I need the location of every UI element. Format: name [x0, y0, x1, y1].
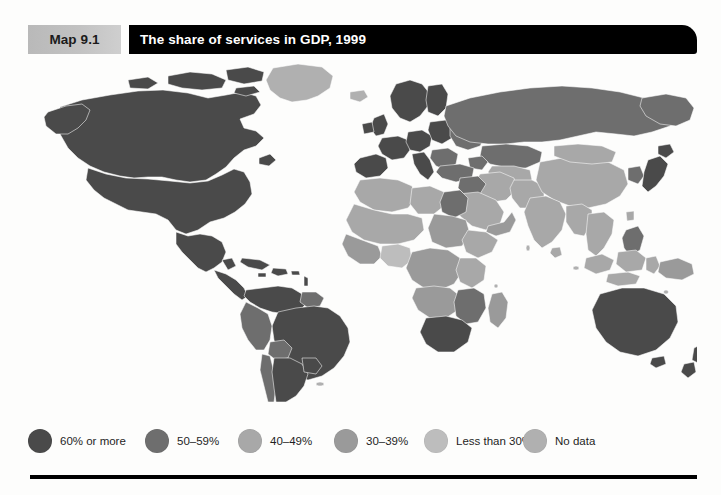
region-taiwan	[626, 211, 634, 221]
region-korea	[628, 166, 644, 184]
region-australia	[592, 288, 678, 356]
region-indonesia-sumatra	[584, 254, 614, 274]
map-number-label: Map 9.1	[49, 32, 99, 47]
region-iberia	[354, 154, 388, 178]
footer-rule	[30, 475, 697, 479]
legend-swatch-less-than-30	[424, 429, 448, 453]
legend-item-less-than-30: Less than 30%	[424, 424, 532, 458]
legend-label-no-data: No data	[555, 435, 595, 447]
region-tasmania	[650, 356, 666, 368]
legend-label-less-than-30: Less than 30%	[456, 435, 532, 447]
region-madagascar	[488, 292, 508, 328]
map-title-bar: The share of services in GDP, 1999	[129, 25, 697, 54]
region-scandinavia	[390, 80, 430, 122]
legend-item-no-data: No data	[523, 424, 595, 458]
region-central-africa	[406, 248, 462, 290]
legend-item-40-49: 40–49%	[238, 424, 312, 458]
region-japan	[642, 156, 668, 192]
region-puerto-rico	[291, 271, 300, 275]
region-iceland	[350, 90, 368, 102]
region-indonesia-java	[606, 272, 640, 286]
region-india	[524, 196, 566, 248]
legend-swatch-no-data	[523, 429, 547, 453]
map-header-banner: Map 9.1 The share of services in GDP, 19…	[28, 25, 697, 54]
map-number-box: Map 9.1	[28, 25, 121, 54]
map-title: The share of services in GDP, 1999	[129, 32, 366, 47]
region-canada-arctic-3	[128, 77, 158, 89]
region-island-speck-1	[573, 266, 579, 270]
region-jamaica	[258, 273, 266, 277]
map-legend: 60% or more 50–59% 40–49% 30–39% Less th…	[28, 424, 697, 458]
region-angola-zambia	[412, 286, 460, 318]
legend-swatch-40-49	[238, 429, 262, 453]
region-new-zealand-south	[681, 362, 696, 378]
region-ireland	[362, 122, 374, 134]
region-mozambique-zimbabwe	[454, 288, 486, 324]
legend-item-30-39: 30–39%	[334, 424, 408, 458]
region-papua-new-guinea	[658, 258, 694, 280]
region-island-speck-4	[316, 382, 324, 386]
legend-label-30-39: 30–39%	[366, 435, 408, 447]
region-thailand-indochina	[586, 212, 614, 256]
region-island-speck-5	[494, 284, 498, 288]
legend-swatch-30-39	[334, 429, 358, 453]
region-lesser-antilles	[304, 276, 308, 286]
region-mexico	[176, 232, 226, 272]
region-island-speck-2	[664, 290, 669, 294]
region-newfoundland	[259, 154, 276, 166]
legend-label-50-59: 50–59%	[177, 435, 219, 447]
region-france-benelux	[378, 136, 410, 160]
region-central-america	[214, 270, 248, 300]
region-canada	[60, 90, 264, 182]
world-choropleth-map	[30, 62, 697, 402]
region-hispaniola	[271, 268, 288, 276]
legend-item-50-59: 50–59%	[145, 424, 219, 458]
region-yucatan	[222, 258, 236, 270]
region-germany-alps	[406, 130, 432, 152]
region-argentina	[272, 358, 308, 402]
region-libya	[410, 186, 444, 214]
region-new-zealand	[692, 344, 697, 364]
region-japan-north	[658, 144, 674, 158]
region-russia	[444, 86, 676, 144]
region-island-speck-3	[526, 245, 530, 251]
legend-item-60-or-more: 60% or more	[28, 424, 126, 458]
legend-label-60-or-more: 60% or more	[60, 435, 126, 447]
legend-label-40-49: 40–49%	[270, 435, 312, 447]
region-cuba	[240, 258, 270, 270]
region-greenland	[266, 64, 333, 102]
region-kazakhstan	[480, 144, 542, 168]
region-sri-lanka	[550, 247, 562, 258]
region-kenya-tanzania	[456, 258, 486, 288]
legend-swatch-60-or-more	[28, 429, 52, 453]
legend-swatch-50-59	[145, 429, 169, 453]
world-map-svg	[30, 62, 697, 402]
region-canada-arctic-1	[168, 72, 226, 90]
region-canada-arctic-2	[226, 67, 264, 84]
region-borneo	[616, 250, 646, 272]
